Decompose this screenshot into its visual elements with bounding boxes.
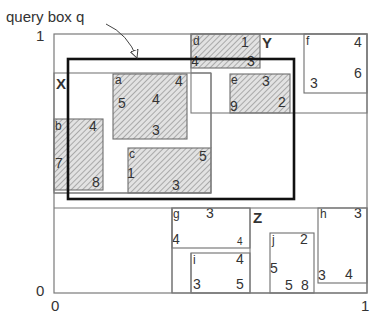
box-b-value: 4 — [89, 118, 97, 134]
box-g-value: 3 — [206, 205, 214, 221]
box-i-value: 5 — [236, 276, 244, 292]
box-a-value: 5 — [118, 95, 126, 111]
region-z-label: Z — [253, 209, 262, 226]
box-g-value: 4 — [237, 236, 243, 247]
box-h-name: h — [320, 207, 327, 221]
r-tree-diagram: a4543b478c513d143e392f463g344h334i435j25… — [0, 0, 385, 326]
box-e-value: 9 — [230, 98, 238, 114]
box-f-value: 3 — [310, 75, 318, 91]
box-a-value: 4 — [175, 73, 183, 89]
box-a-value: 3 — [152, 122, 160, 138]
box-c: c513 — [127, 147, 211, 193]
annotation-arrow-icon — [106, 24, 137, 58]
box-e-value: 3 — [262, 73, 270, 89]
box-h-value: 3 — [318, 267, 326, 283]
box-j-value: 2 — [300, 231, 308, 247]
box-d: d143 — [191, 34, 260, 69]
box-b: b478 — [54, 118, 103, 190]
box-c-value: 5 — [199, 148, 207, 164]
region-y-label: Y — [262, 34, 272, 51]
box-b-value: 7 — [55, 155, 63, 171]
y-axis-bottom-label: 0 — [36, 282, 44, 299]
box-h-value: 3 — [354, 205, 362, 221]
box-g-value: 4 — [172, 231, 180, 247]
x-axis-left-label: 0 — [51, 297, 59, 314]
box-c-value: 1 — [127, 165, 135, 181]
box-j-name: j — [271, 233, 275, 247]
box-e-value: 2 — [278, 94, 286, 110]
query-box-label: query box q — [6, 8, 84, 25]
y-axis-top-label: 1 — [36, 27, 44, 44]
box-d-name: d — [193, 34, 200, 48]
box-a-name: a — [115, 73, 122, 87]
box-j: j2558 — [270, 231, 314, 293]
box-j-value: 5 — [285, 277, 293, 293]
box-e-name: e — [231, 73, 238, 87]
box-f-name: f — [306, 34, 310, 48]
box-a: a4543 — [113, 73, 187, 139]
box-b-value: 8 — [92, 174, 100, 190]
box-d-value: 3 — [247, 53, 255, 69]
box-c-name: c — [129, 147, 135, 161]
box-j-value: 5 — [270, 260, 278, 276]
diagram-canvas: a4543b478c513d143e392f463g344h334i435j25… — [0, 0, 385, 326]
x-axis-right-label: 1 — [361, 297, 369, 314]
box-g: g344 — [172, 205, 250, 248]
box-g-name: g — [173, 207, 180, 221]
box-d-value: 1 — [241, 34, 249, 50]
box-f-value: 6 — [354, 65, 362, 81]
box-i-value: 3 — [193, 276, 201, 292]
box-i-name: i — [193, 253, 196, 267]
box-f: f463 — [304, 34, 367, 93]
box-h-value: 4 — [345, 266, 353, 282]
box-b-name: b — [55, 119, 62, 133]
box-i-value: 4 — [236, 251, 244, 267]
box-h: h334 — [318, 205, 367, 283]
box-e: e392 — [230, 73, 290, 114]
box-a-value: 4 — [152, 91, 160, 107]
box-c-value: 3 — [172, 177, 180, 193]
box-f-value: 4 — [354, 34, 362, 50]
region-x-label: X — [56, 75, 66, 92]
box-i: i435 — [191, 251, 250, 293]
box-j-value: 8 — [301, 277, 309, 293]
box-d-value: 4 — [191, 53, 199, 69]
